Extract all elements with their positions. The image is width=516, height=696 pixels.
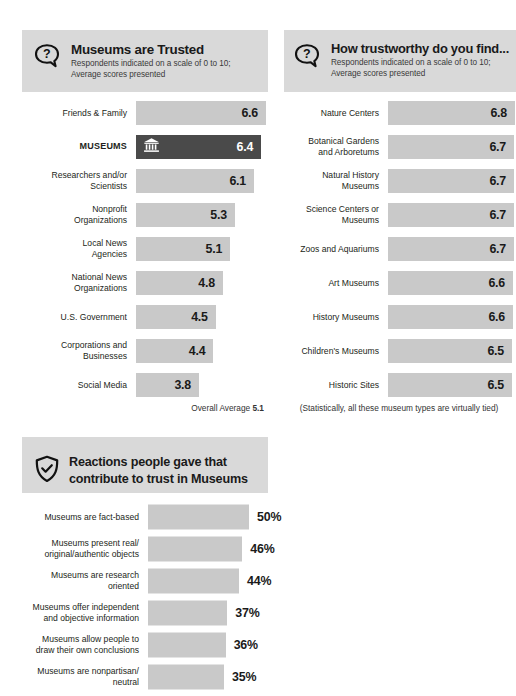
- chart-row: Children's Museums6.5: [284, 334, 516, 368]
- bar-area: 6.7: [388, 232, 516, 266]
- row-label: Museums offer independentand objective i…: [22, 602, 148, 623]
- bar-value: 6.4: [237, 140, 262, 154]
- row-label: Museums are researchoriented: [22, 570, 148, 591]
- row-label: Historic Sites: [284, 380, 388, 391]
- value-bar: 6.5: [388, 339, 512, 363]
- panel-reactions: Reactions people gave that contribute to…: [22, 437, 268, 696]
- row-label-line: Museums allow people to: [22, 634, 139, 645]
- row-label-line: Scientists: [22, 181, 127, 192]
- bar-area: 6.1: [136, 164, 268, 198]
- svg-text:?: ?: [43, 47, 51, 61]
- row-label-line: Museums present real/: [22, 538, 139, 549]
- row-label-line: Organizations: [22, 215, 127, 226]
- bar-value: 6.5: [487, 344, 512, 358]
- row-label-line: Science Centers or: [284, 204, 379, 215]
- value-bar: 5.3: [136, 203, 235, 227]
- row-label-line: Organizations: [22, 283, 127, 294]
- row-label: Children's Museums: [284, 346, 388, 357]
- question-bubble-icon: ?: [34, 43, 62, 75]
- chart-row: Museums are fact-based50%: [22, 501, 268, 533]
- chart-row: History Museums6.6: [284, 300, 516, 334]
- chart-row: MUSEUMS6.4: [22, 130, 268, 164]
- bar-value: 35%: [232, 670, 256, 684]
- chart-row: Natural HistoryMuseums6.7: [284, 164, 516, 198]
- svg-text:?: ?: [303, 47, 311, 61]
- bar-value: 6.7: [489, 242, 514, 256]
- row-label-line: Local News: [22, 238, 127, 249]
- row-label: Researchers and/orScientists: [22, 170, 136, 191]
- row-label: Science Centers orMuseums: [284, 204, 388, 225]
- bar-area: 6.6: [388, 266, 516, 300]
- row-label-line: Businesses: [22, 351, 127, 362]
- bar-value: 6.1: [229, 174, 254, 188]
- value-bar: 6.1: [136, 169, 254, 193]
- value-bar: 6.6: [388, 271, 513, 295]
- chart-row: Museums present real/original/authentic …: [22, 533, 268, 565]
- chart-row: Local NewsAgencies5.1: [22, 232, 268, 266]
- value-bar: 4.8: [136, 271, 223, 295]
- row-label-line: Museums: [284, 215, 379, 226]
- bar-value: 6.7: [489, 140, 514, 154]
- bar-value: 44%: [247, 574, 271, 588]
- chart-row: Museums are researchoriented44%: [22, 565, 268, 597]
- value-bar: [148, 505, 249, 530]
- row-label-line: Historic Sites: [284, 380, 379, 391]
- panel-header-trustworthy: ? How trustworthy do you find... Respond…: [284, 30, 516, 92]
- row-label-line: Museums: [284, 181, 379, 192]
- row-label-line: U.S. Government: [22, 312, 127, 323]
- value-bar: 6.7: [388, 237, 514, 261]
- value-bar: [148, 633, 226, 658]
- bar-area: 4.4: [136, 334, 268, 368]
- row-label: Friends & Family: [22, 108, 136, 119]
- chart-row: Art Museums6.6: [284, 266, 516, 300]
- bar-area: 4.5: [136, 300, 268, 334]
- panel-subtitle-trusted: Respondents indicated on a scale of 0 to…: [71, 59, 258, 81]
- row-label-line: original/authentic objects: [22, 549, 139, 560]
- panel-header-reactions: Reactions people gave that contribute to…: [22, 437, 268, 493]
- row-label: Museums allow people todraw their own co…: [22, 634, 148, 655]
- bar-area: 6.4: [136, 130, 268, 164]
- row-label-line: Natural History: [284, 170, 379, 181]
- row-label: Museums are fact-based: [22, 512, 148, 523]
- bar-area: 5.3: [136, 198, 268, 232]
- chart-row: Museums are nonpartisan/neutral35%: [22, 661, 268, 693]
- value-bar: 6.7: [388, 135, 514, 159]
- panel-title-reactions-line1: Reactions people gave that: [69, 454, 258, 470]
- bar-value: 36%: [234, 638, 258, 652]
- chart-row: Historic Sites6.5: [284, 368, 516, 402]
- chart-row: National NewsOrganizations4.8: [22, 266, 268, 300]
- row-label-line: Friends & Family: [22, 108, 127, 119]
- row-label: MUSEUMS: [22, 141, 136, 152]
- value-bar: 6.6: [136, 101, 266, 125]
- value-bar: [148, 665, 224, 690]
- chart-row: Nature Centers6.8: [284, 96, 516, 130]
- bar-value: 6.7: [489, 208, 514, 222]
- panel-museums-are-trusted: ? Museums are Trusted Respondents indica…: [22, 30, 268, 430]
- row-label-line: and objective information: [22, 613, 139, 624]
- value-bar: 6.7: [388, 169, 514, 193]
- bar-area: 4.8: [136, 266, 268, 300]
- row-label-line: Museums are fact-based: [22, 512, 139, 523]
- row-label-line: MUSEUMS: [22, 141, 127, 152]
- row-label-line: Botanical Gardens: [284, 136, 379, 147]
- panel-title-trusted: Museums are Trusted: [71, 42, 258, 57]
- row-label-line: neutral: [22, 677, 139, 688]
- value-bar: [148, 569, 239, 594]
- chart-row: U.S. Government4.5: [22, 300, 268, 334]
- row-label: Local NewsAgencies: [22, 238, 136, 259]
- value-bar: 5.1: [136, 237, 230, 261]
- bar-area: 6.5: [388, 334, 516, 368]
- bar-area: 37%: [148, 597, 268, 629]
- bar-value: 6.8: [490, 106, 515, 120]
- bar-value: 50%: [257, 510, 281, 524]
- row-label-line: History Museums: [284, 312, 379, 323]
- bar-area: 6.7: [388, 130, 516, 164]
- bar-value: 5.1: [205, 242, 230, 256]
- chart-row: Zoos and Aquariums6.7: [284, 232, 516, 266]
- footnote-statistically-tied: (Statistically, all these museum types a…: [282, 403, 516, 413]
- bar-value: 46%: [250, 542, 274, 556]
- row-label-line: Researchers and/or: [22, 170, 127, 181]
- value-bar: 6.5: [388, 373, 512, 397]
- bar-area: 6.6: [136, 96, 268, 130]
- question-bubble-icon: ?: [294, 43, 322, 75]
